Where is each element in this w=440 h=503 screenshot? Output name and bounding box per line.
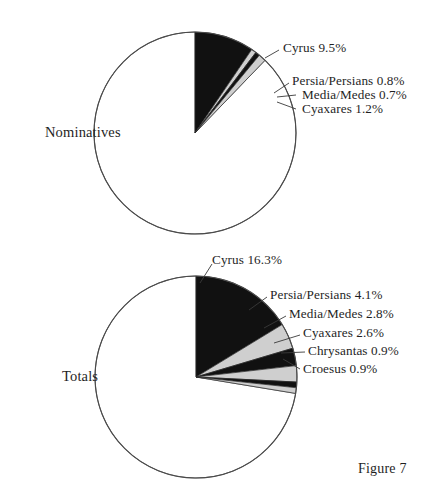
chart-side-label-nominatives: Nominatives [45, 124, 121, 141]
slice-label-cyrus: Cyrus 16.3% [212, 252, 282, 268]
chart-side-label-totals: Totals [62, 368, 98, 385]
figure-7-pie-charts: Nominatives Cyrus 9.5%Persia/Persians 0.… [0, 0, 440, 503]
leader-line-cyrus [265, 50, 279, 58]
pie-chart-nominatives: Nominatives Cyrus 9.5%Persia/Persians 0.… [0, 0, 440, 250]
slice-label-chrysantas: Chrysantas 0.9% [308, 343, 399, 359]
slice-label-cyrus: Cyrus 9.5% [283, 40, 346, 56]
slice-label-cyaxares: Cyaxares 1.2% [302, 101, 383, 117]
slice-label-croesus: Croesus 0.9% [303, 361, 377, 377]
slice-label-media-medes: Media/Medes 2.8% [289, 306, 394, 322]
slice-label-cyaxares: Cyaxares 2.6% [303, 325, 384, 341]
figure-caption: Figure 7 [358, 461, 407, 477]
slice-label-persia-persians: Persia/Persians 4.1% [270, 287, 383, 303]
